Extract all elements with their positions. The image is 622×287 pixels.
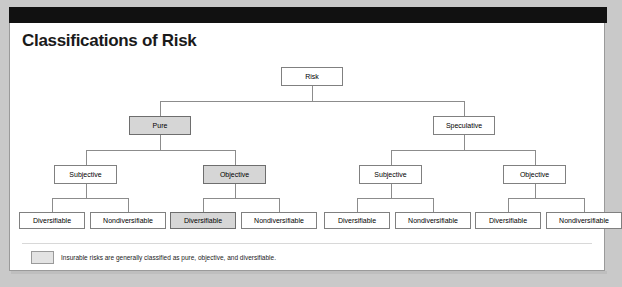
- connector-line-vertical: [279, 198, 280, 212]
- tree-node-label: Nondiversifiable: [103, 217, 153, 224]
- tree-node-pure-subj-nondiv: Nondiversifiable: [90, 212, 166, 229]
- tree-node-label: Nondiversifiable: [559, 217, 609, 224]
- tree-node-label: Objective: [220, 171, 249, 178]
- connector-line-vertical: [584, 198, 585, 212]
- tree-node-pure-subj-div: Diversifiable: [19, 212, 85, 229]
- tree-node-spec-subj-nondiv: Nondiversifiable: [395, 212, 471, 229]
- legend-label: Insurable risks are generally classified…: [61, 254, 276, 261]
- connector-line-vertical: [464, 101, 465, 116]
- tree-node-label: Diversifiable: [33, 217, 71, 224]
- connector-line-vertical: [203, 198, 204, 212]
- connector-line-horizontal: [357, 198, 433, 199]
- connector-line-vertical: [235, 150, 236, 165]
- legend-divider: [22, 243, 592, 244]
- connector-line-horizontal: [86, 150, 235, 151]
- tree-node-pure-obj-div: Diversifiable: [170, 212, 236, 229]
- panel-drop-shadow: [11, 271, 607, 274]
- tree-node-label: Subjective: [69, 171, 101, 178]
- connector-line-horizontal: [52, 198, 128, 199]
- connector-line-vertical: [160, 101, 161, 116]
- tree-node-label: Diversifiable: [184, 217, 222, 224]
- connector-line-vertical: [535, 184, 536, 198]
- tree-node-spec-subj-div: Diversifiable: [324, 212, 390, 229]
- connector-line-vertical: [86, 150, 87, 165]
- connector-line-vertical: [86, 184, 87, 198]
- tree-node-pure: Pure: [129, 116, 191, 135]
- connector-line-vertical: [160, 135, 161, 150]
- tree-node-pure-obj-nondiv: Nondiversifiable: [241, 212, 317, 229]
- tree-node-risk: Risk: [281, 67, 343, 86]
- connector-line-horizontal: [391, 150, 535, 151]
- tree-node-label: Pure: [153, 122, 168, 129]
- connector-line-horizontal: [160, 101, 464, 102]
- connector-line-vertical: [128, 198, 129, 212]
- tree-node-label: Objective: [520, 171, 549, 178]
- shaded-box-swatch-icon: [31, 251, 54, 264]
- tree-node-spec-obj-nondiv: Nondiversifiable: [546, 212, 622, 229]
- tree-node-label: Nondiversifiable: [408, 217, 458, 224]
- tree-node-label: Diversifiable: [338, 217, 376, 224]
- connector-line-vertical: [312, 86, 313, 101]
- connector-line-vertical: [391, 150, 392, 165]
- risk-hierarchy-tree: RiskPureSpeculativeSubjectiveObjectiveSu…: [9, 23, 605, 271]
- connector-line-horizontal: [508, 198, 584, 199]
- tree-node-label: Subjective: [374, 171, 406, 178]
- connector-line-vertical: [357, 198, 358, 212]
- connector-line-vertical: [391, 184, 392, 198]
- connector-line-vertical: [52, 198, 53, 212]
- connector-line-vertical: [508, 198, 509, 212]
- top-black-band: [9, 7, 607, 23]
- tree-node-label: Nondiversifiable: [254, 217, 304, 224]
- connector-line-vertical: [433, 198, 434, 212]
- connector-line-vertical: [235, 184, 236, 198]
- tree-node-pure-subj: Subjective: [54, 165, 117, 184]
- tree-node-speculative: Speculative: [433, 116, 495, 135]
- tree-node-pure-obj: Objective: [203, 165, 266, 184]
- tree-node-label: Diversifiable: [489, 217, 527, 224]
- connector-line-vertical: [535, 150, 536, 165]
- tree-node-spec-obj: Objective: [503, 165, 566, 184]
- tree-node-spec-subj: Subjective: [359, 165, 422, 184]
- tree-node-label: Risk: [305, 73, 319, 80]
- legend: Insurable risks are generally classified…: [31, 251, 276, 264]
- connector-line-vertical: [464, 135, 465, 150]
- tree-node-label: Speculative: [446, 122, 482, 129]
- tree-node-spec-obj-div: Diversifiable: [475, 212, 541, 229]
- connector-line-horizontal: [203, 198, 279, 199]
